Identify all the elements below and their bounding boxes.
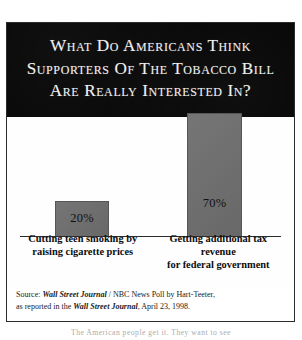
source-suffix: , April 23, 1998. xyxy=(138,302,190,311)
bar-tax-revenue: 70% xyxy=(187,113,242,237)
chart-plot-area: 20% 70% Cutting teen smoking by raising … xyxy=(7,117,294,289)
source-note: Source: Wall Street Journal / NBC News P… xyxy=(7,289,294,321)
category-label-row: Cutting teen smoking by raising cigarett… xyxy=(7,232,294,271)
source-line-2: as reported in the Wall Street Journal, … xyxy=(16,301,285,312)
chart-title-line-2: Supporters Of The Tobacco Bill xyxy=(27,58,275,81)
source-suffix: / NBC News Poll by Hart-Teeter, xyxy=(107,290,215,299)
category-label-tax-revenue: Getting additional tax revenue for feder… xyxy=(151,232,287,271)
category-label-teen-smoking: Cutting teen smoking by raising cigarett… xyxy=(15,232,151,271)
source-prefix: Source: xyxy=(16,290,42,299)
chart-title-block: What Do Americans Think Supporters Of Th… xyxy=(7,23,294,117)
source-publication: Wall Street Journal xyxy=(42,290,106,299)
source-line-1: Source: Wall Street Journal / NBC News P… xyxy=(16,289,285,300)
chart-figure: What Do Americans Think Supporters Of Th… xyxy=(6,22,295,322)
category-label-line: Cutting teen smoking by xyxy=(17,232,149,245)
bar-value-label: 20% xyxy=(56,211,108,226)
category-label-line: raising cigarette prices xyxy=(17,245,149,258)
chart-title-line-3: Are Really Interested In? xyxy=(50,80,252,103)
category-label-line: for federal government xyxy=(153,258,285,271)
source-prefix: as reported in the xyxy=(16,302,73,311)
source-publication: Wall Street Journal xyxy=(73,302,137,311)
chart-title-line-1: What Do Americans Think xyxy=(50,35,251,58)
bar-value-label: 70% xyxy=(188,196,241,211)
bar-container: 20% 70% xyxy=(7,109,294,237)
page-body-text-excerpt: The American people get it. They want to… xyxy=(0,328,302,337)
bar-group-tax-revenue: 70% xyxy=(187,113,242,237)
category-label-line: Getting additional tax revenue xyxy=(153,232,285,258)
